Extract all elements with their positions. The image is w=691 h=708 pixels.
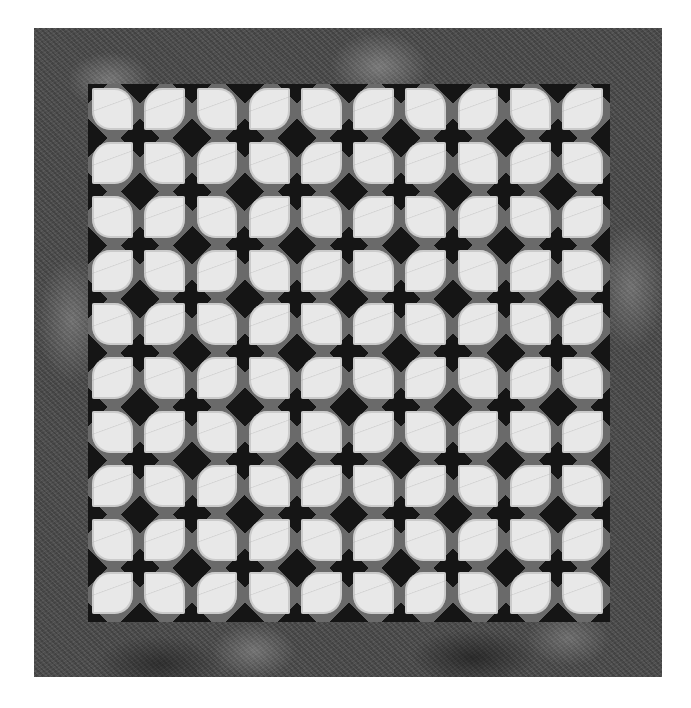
- quilt-block: [558, 514, 610, 568]
- leaf-patch: [249, 250, 290, 292]
- leaf-patch: [249, 142, 290, 184]
- quilt-block: [297, 299, 349, 353]
- quilt-block: [349, 461, 401, 515]
- quilt-block: [506, 407, 558, 461]
- quilt-block: [297, 84, 349, 138]
- leaf-patch: [405, 250, 446, 292]
- quilt-block: [140, 461, 192, 515]
- quilt-block: [245, 514, 297, 568]
- leaf-patch: [197, 519, 238, 561]
- quilt-block: [297, 461, 349, 515]
- leaf-patch: [405, 465, 446, 507]
- quilt-block: [192, 353, 244, 407]
- leaf-patch: [197, 411, 238, 453]
- leaf-patch: [405, 142, 446, 184]
- leaf-patch: [353, 196, 394, 238]
- leaf-patch: [144, 303, 185, 345]
- leaf-patch: [301, 250, 342, 292]
- quilt-block: [558, 407, 610, 461]
- quilt-block: [140, 514, 192, 568]
- quilt-block: [140, 353, 192, 407]
- quilt-block: [245, 568, 297, 622]
- quilt-block: [140, 138, 192, 192]
- quilt-block: [453, 407, 505, 461]
- quilt-block: [88, 407, 140, 461]
- leaf-patch: [144, 411, 185, 453]
- leaf-patch: [144, 142, 185, 184]
- quilt-block: [558, 245, 610, 299]
- leaf-patch: [144, 465, 185, 507]
- leaf-patch: [92, 88, 133, 130]
- quilt-block: [192, 514, 244, 568]
- leaf-patch: [458, 411, 499, 453]
- leaf-patch: [301, 196, 342, 238]
- quilt-block: [192, 245, 244, 299]
- leaf-patch: [510, 572, 551, 614]
- leaf-patch: [249, 303, 290, 345]
- leaf-patch: [197, 357, 238, 399]
- quilt-block: [192, 84, 244, 138]
- leaf-patch: [405, 196, 446, 238]
- quilt-block: [506, 353, 558, 407]
- quilt-block: [349, 568, 401, 622]
- quilt-block: [453, 138, 505, 192]
- leaf-patch: [353, 88, 394, 130]
- leaf-patch: [405, 88, 446, 130]
- leaf-patch: [92, 357, 133, 399]
- quilt-block: [88, 138, 140, 192]
- leaf-patch: [353, 465, 394, 507]
- leaf-patch: [353, 357, 394, 399]
- quilt-block: [297, 568, 349, 622]
- quilt-block: [88, 192, 140, 246]
- quilt-block: [192, 299, 244, 353]
- leaf-patch: [510, 465, 551, 507]
- quilt-block: [140, 84, 192, 138]
- leaf-patch: [510, 519, 551, 561]
- quilt-block: [245, 407, 297, 461]
- leaf-patch: [562, 411, 603, 453]
- quilt-block: [401, 84, 453, 138]
- quilt-block: [506, 192, 558, 246]
- leaf-patch: [197, 196, 238, 238]
- quilt-block: [558, 192, 610, 246]
- quilt-block: [401, 192, 453, 246]
- quilt-block: [558, 299, 610, 353]
- leaf-patch: [458, 572, 499, 614]
- leaf-patch: [92, 519, 133, 561]
- leaf-patch: [458, 88, 499, 130]
- quilt-block: [88, 514, 140, 568]
- leaf-patch: [562, 519, 603, 561]
- leaf-patch: [92, 303, 133, 345]
- quilt-block: [297, 407, 349, 461]
- quilt-block: [401, 461, 453, 515]
- quilt-block: [506, 84, 558, 138]
- leaf-patch: [458, 303, 499, 345]
- leaf-patch: [405, 519, 446, 561]
- leaf-patch: [458, 250, 499, 292]
- quilt-block: [297, 353, 349, 407]
- quilt-block: [349, 514, 401, 568]
- quilt-block: [140, 192, 192, 246]
- quilt-block: [558, 84, 610, 138]
- quilt-block: [453, 568, 505, 622]
- quilt-block: [88, 353, 140, 407]
- quilt-block: [453, 192, 505, 246]
- leaf-patch: [562, 303, 603, 345]
- quilt-block: [506, 568, 558, 622]
- quilt-block: [88, 461, 140, 515]
- leaf-patch: [301, 357, 342, 399]
- quilt-block: [192, 461, 244, 515]
- leaf-patch: [92, 465, 133, 507]
- quilt-block: [88, 84, 140, 138]
- leaf-patch: [197, 465, 238, 507]
- leaf-patch: [301, 303, 342, 345]
- quilt-block: [88, 299, 140, 353]
- leaf-patch: [510, 357, 551, 399]
- quilt-block: [506, 299, 558, 353]
- quilt-block: [453, 299, 505, 353]
- leaf-patch: [197, 142, 238, 184]
- quilt-block: [506, 514, 558, 568]
- leaf-patch: [249, 572, 290, 614]
- leaf-patch: [197, 303, 238, 345]
- quilt-block: [245, 192, 297, 246]
